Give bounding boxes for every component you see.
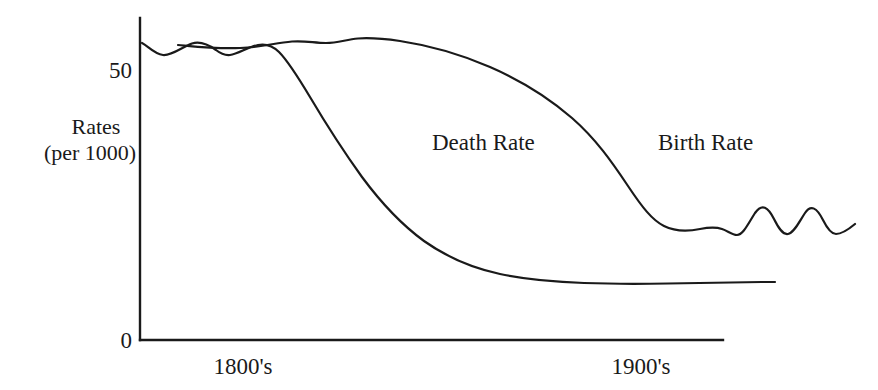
death-rate-curve [142,43,775,284]
demographic-transition-figure: 50 0 Rates (per 1000) 1800's 1900's Deat… [0,0,878,390]
chart-plot-area: 50 0 Rates (per 1000) 1800's 1900's Deat… [0,0,878,390]
x-tick-label-1800s: 1800's [213,354,272,379]
series-label-death-rate: Death Rate [432,130,535,155]
x-tick-label-1900s: 1900's [611,354,670,379]
y-axis-title-line1: Rates [72,114,121,139]
y-tick-label-0: 0 [121,328,133,353]
y-tick-label-50: 50 [109,58,132,83]
y-axis-title-line2: (per 1000) [44,140,136,165]
series-label-birth-rate: Birth Rate [658,130,753,155]
